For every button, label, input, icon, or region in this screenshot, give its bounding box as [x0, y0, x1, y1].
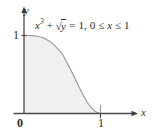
graph-figure: y x 1 0 1 x3 + √y = 1, 0 ≤ x ≤ 1	[0, 0, 153, 140]
equation-annotation: x3 + √y = 1, 0 ≤ x ≤ 1	[35, 19, 130, 31]
axis-label-x: x	[141, 107, 146, 118]
radicand-group: y	[61, 19, 67, 31]
x-tick-label-1: 1	[98, 117, 104, 129]
radicand: y	[61, 20, 66, 32]
equation-equals: = 1, 0	[66, 19, 98, 31]
equation-plus: +	[44, 19, 56, 31]
x-axis-arrowhead	[132, 111, 139, 116]
axis-label-y: y	[24, 5, 29, 16]
equation-variable: x	[104, 19, 115, 31]
origin-tick-label: 0	[17, 117, 23, 129]
equation-upper-bound: 1	[121, 19, 129, 31]
shaded-region	[24, 35, 101, 113]
y-tick-label-1: 1	[13, 29, 19, 41]
